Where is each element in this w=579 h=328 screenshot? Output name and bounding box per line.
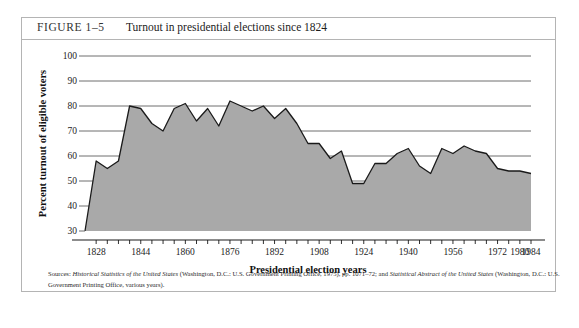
y-tick-label: 90 bbox=[68, 76, 78, 86]
x-tick-label: 1844 bbox=[131, 247, 150, 257]
source-title-1: Historical Statistics of the United Stat… bbox=[72, 270, 178, 277]
turnout-area-chart: 30405060708090100 1828184418601876189219… bbox=[22, 40, 557, 293]
figure-title-label: Turnout in presidential elections since … bbox=[126, 21, 327, 33]
axes-group bbox=[72, 240, 545, 244]
area-series-group bbox=[85, 101, 531, 231]
y-tick-label: 100 bbox=[63, 51, 78, 61]
x-tick-label: 1924 bbox=[354, 247, 373, 257]
x-tick-label: 1972 bbox=[488, 247, 507, 257]
x-tick-label: 1876 bbox=[220, 247, 239, 257]
y-tick-label: 70 bbox=[68, 126, 78, 136]
x-tick-label: 1908 bbox=[310, 247, 329, 257]
x-tick-labels-group: 1828184418601876189219081924194019561972… bbox=[87, 247, 541, 257]
x-minor-ticks bbox=[96, 240, 531, 244]
x-tick-label: 1940 bbox=[399, 247, 418, 257]
chart-plot-area: 30405060708090100 1828184418601876189219… bbox=[22, 40, 557, 293]
x-tick-label: 1860 bbox=[176, 247, 195, 257]
source-body-1: (Washington, D.C.: U.S. Government Print… bbox=[178, 270, 390, 277]
y-tick-labels-group: 30405060708090100 bbox=[63, 51, 85, 236]
figure-title-bar: FIGURE 1–5 Turnout in presidential elect… bbox=[22, 18, 555, 40]
y-tick-label: 80 bbox=[68, 101, 78, 111]
figure-frame: FIGURE 1–5 Turnout in presidential elect… bbox=[21, 17, 556, 292]
x-tick-label: 1984 bbox=[522, 247, 541, 257]
turnout-area-fill bbox=[85, 101, 531, 231]
y-tick-label: 50 bbox=[68, 176, 78, 186]
x-tick-label: 1892 bbox=[265, 247, 284, 257]
y-tick-label: 30 bbox=[68, 226, 78, 236]
x-tick-label: 1956 bbox=[443, 247, 462, 257]
y-tick-label: 40 bbox=[68, 201, 78, 211]
x-tick-label: 1828 bbox=[87, 247, 106, 257]
y-axis-title: Percent turnout of eligible voters bbox=[37, 70, 48, 217]
source-label: Sources: bbox=[48, 270, 71, 277]
source-title-2: Statistical Abstract of the United State… bbox=[390, 270, 494, 277]
y-tick-label: 60 bbox=[68, 151, 78, 161]
source-note: Sources: Historical Statistics of the Un… bbox=[48, 269, 573, 290]
figure-number-label: FIGURE 1–5 bbox=[37, 21, 105, 33]
